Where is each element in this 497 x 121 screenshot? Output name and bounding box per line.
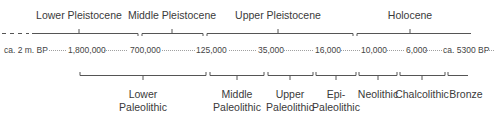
- date-label: ca. 2 m. BP: [4, 45, 48, 55]
- date-label: 10,000: [361, 45, 387, 55]
- epoch-label-lower-pleistocene: Lower Pleistocene: [36, 9, 122, 22]
- date-label: 700,000: [130, 45, 161, 55]
- date-label: 125,000: [196, 45, 227, 55]
- date-label: 6,000: [406, 45, 427, 55]
- date-label: 16,000: [315, 45, 341, 55]
- date-label: 1,800,000: [68, 45, 106, 55]
- period-label-middle-paleolithic: Middle Paleolithic: [213, 88, 261, 114]
- epoch-label-upper-pleistocene: Upper Pleistocene: [235, 9, 321, 22]
- period-label-upper-paleolithic: Upper Paleolithic: [266, 88, 314, 114]
- date-label: ca. 5300 BP: [443, 45, 489, 55]
- period-label-chalcolithic: Chalcolithic: [395, 88, 449, 101]
- epoch-label-holocene: Holocene: [388, 9, 432, 22]
- period-label-bronze: Bronze: [449, 88, 482, 101]
- period-label-epi-paleolithic: Epi- Paleolithic: [312, 88, 360, 114]
- epoch-label-middle-pleistocene: Middle Pleistocene: [128, 9, 216, 22]
- period-label-neolithic: Neolithic: [358, 88, 398, 101]
- period-label-lower-paleolithic: Lower Paleolithic: [119, 88, 167, 114]
- date-label: 35,000: [258, 45, 284, 55]
